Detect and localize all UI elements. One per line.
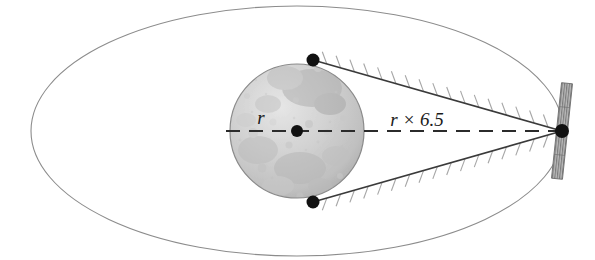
distance-label: r × 6.5 (390, 109, 443, 130)
body-center-dot (291, 125, 303, 137)
radius-label: r (257, 107, 265, 128)
lower-tangent-point-dot (307, 196, 320, 209)
figure-canvas: r r × 6.5 (0, 0, 595, 260)
satellite-orbit-diagram: r r × 6.5 (0, 0, 595, 260)
satellite-hub-dot (555, 124, 569, 138)
upper-tangent-point-dot (307, 54, 320, 67)
